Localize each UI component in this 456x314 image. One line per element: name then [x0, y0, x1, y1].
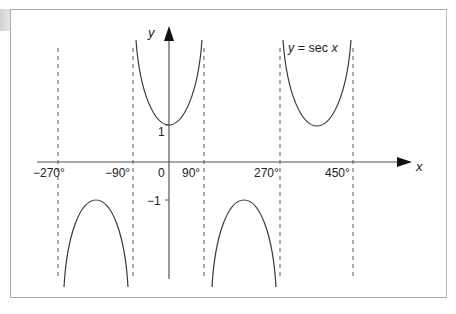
formula-eq: = sec: [294, 41, 331, 55]
x-tick-label-450: 450°: [325, 167, 350, 179]
x-tick-label-m270: −270°: [33, 167, 65, 179]
formula-label: y = sec x: [288, 42, 338, 55]
x-tick-label-0: 0: [158, 167, 165, 179]
y-tick-label-1: 1: [158, 126, 165, 138]
x-axis-arrow-icon: [397, 157, 412, 167]
branch-lower-right: [212, 200, 276, 287]
x-tick-label-m90: −90°: [105, 167, 130, 179]
asymptotes: [58, 48, 353, 278]
y-axis-arrow-icon: [164, 26, 174, 41]
sec-plot: [0, 0, 456, 314]
x-tick-label-270: 270°: [254, 167, 279, 179]
x-tick-label-90: 90°: [182, 167, 200, 179]
sec-curves: [64, 40, 351, 287]
y-axis-label: y: [148, 26, 155, 39]
y-tick-label-m1: −1: [147, 195, 161, 207]
formula-x: x: [331, 41, 337, 55]
branch-lower-left: [64, 200, 128, 287]
x-axis-label: x: [416, 160, 423, 173]
